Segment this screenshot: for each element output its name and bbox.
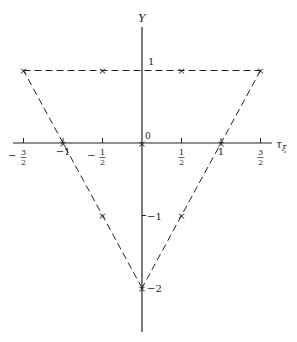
x-tick-fraction: 12 [179, 148, 185, 167]
ticks: −32−1−12121321−1−2 [8, 56, 263, 295]
weight-point: × [177, 65, 185, 76]
weight-point: × [98, 65, 106, 76]
x-tick-fraction: −12 [87, 148, 105, 167]
triangle-edge [142, 71, 261, 289]
x-tick-denominator: 2 [21, 158, 26, 167]
y-tick-label: −2 [147, 283, 162, 294]
weight-point: × [217, 138, 225, 149]
weight-point: × [19, 65, 27, 76]
y-tick-label: −1 [147, 211, 162, 222]
x-tick-numerator: 1 [100, 148, 105, 157]
x-tick-fraction: 32 [258, 148, 264, 167]
weight-point: × [256, 65, 264, 76]
x-tick-numerator: 1 [179, 148, 184, 157]
x-tick-denominator: 2 [179, 158, 184, 167]
x-axis-label-sub: ξ [282, 144, 287, 153]
weight-diagram: Y τξ 0 −32−1−12121321−1−2 ×××××××××× [0, 0, 297, 342]
y-tick-label: 1 [148, 56, 154, 67]
x-tick-fraction: −32 [8, 148, 26, 167]
weight-point: × [59, 138, 67, 149]
x-tick-denominator: 2 [258, 158, 263, 167]
x-axis-label: τξ [276, 138, 287, 153]
x-tick-sign: − [8, 150, 16, 161]
weight-point: × [138, 138, 146, 149]
x-tick-sign: − [87, 150, 95, 161]
x-tick-numerator: 3 [258, 148, 263, 157]
x-tick-denominator: 2 [100, 158, 105, 167]
weight-point: × [138, 283, 146, 294]
y-axis-label: Y [138, 12, 147, 25]
triangle-edge [24, 71, 143, 289]
weight-point: × [177, 210, 185, 221]
x-tick-numerator: 3 [21, 148, 26, 157]
weight-point: × [98, 210, 106, 221]
